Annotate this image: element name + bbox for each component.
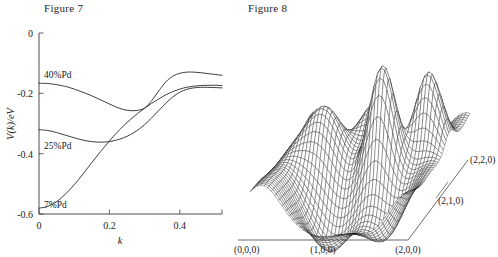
- x-tick-label-1: 0.2: [103, 220, 116, 231]
- figure-8-surface-plot: (0,0,0) (1,0,0) (2,0,0) (2,1,0) (2,2,0): [232, 14, 498, 257]
- figure-7-caption: Figure 7: [44, 2, 83, 14]
- series-line-25pct: [39, 87, 222, 142]
- y-tick-label-3: -0.6: [17, 209, 33, 220]
- figure-sheet: Figure 7 Figure 8 0 -0.2 -0.4 -0.6: [0, 0, 498, 257]
- figure-7-svg: 0 -0.2 -0.4 -0.6 0 0.2 0.4 k V(k)/eV 40%…: [0, 18, 240, 257]
- x-tick-label-0: 0: [37, 220, 42, 231]
- series-label-25pct: 25%Pd: [44, 141, 72, 151]
- y-tick-label-2: -0.4: [17, 149, 33, 160]
- corner-label-x-mid: (1,0,0): [310, 245, 335, 256]
- figure-8-caption: Figure 8: [248, 2, 287, 14]
- series-label-7pct: 7%Pd: [44, 200, 67, 210]
- x-axis-title: k: [118, 235, 123, 246]
- corner-label-y-max: (2,2,0): [470, 155, 495, 166]
- y-axis-title: V(k)/eV: [5, 106, 17, 140]
- figure-7-line-chart: 0 -0.2 -0.4 -0.6 0 0.2 0.4 k V(k)/eV 40%…: [0, 18, 240, 257]
- y-tick-label-1: -0.2: [17, 88, 33, 99]
- x-tick-label-2: 0.4: [174, 220, 187, 231]
- corner-label-origin: (0,0,0): [234, 245, 259, 256]
- surface-mesh: [250, 66, 470, 251]
- corner-label-y-mid: (2,1,0): [438, 196, 463, 207]
- figure-8-svg: (0,0,0) (1,0,0) (2,0,0) (2,1,0) (2,2,0): [232, 14, 498, 257]
- corner-label-x-max: (2,0,0): [395, 245, 420, 256]
- figure-7-axes: [39, 33, 222, 214]
- y-tick-label-0: 0: [28, 28, 33, 39]
- figure-7-series-labels: 40%Pd 25%Pd 7%Pd: [44, 70, 72, 210]
- series-label-40pct: 40%Pd: [44, 70, 72, 80]
